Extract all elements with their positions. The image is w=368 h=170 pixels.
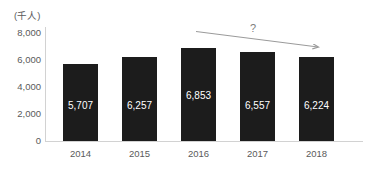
bar-value-label: 6,853 [181,90,216,101]
y-tick-label: 6,000 [1,55,41,65]
bar-2016: 6,853 [181,48,216,141]
x-tick-label-2017: 2017 [240,148,275,159]
bar-value-label: 5,707 [63,100,98,111]
y-tick-label: 0 [1,136,41,146]
y-tick-label: 8,000 [1,28,41,38]
bar-value-label: 6,257 [122,100,157,111]
x-axis-line [45,141,363,142]
y-axis-line [45,27,46,142]
annotation-question-mark: ? [250,22,256,34]
bar-2018: 6,224 [299,57,334,141]
y-axis-tick-labels: 8,000 6,000 4,000 2,000 0 [0,0,41,170]
bar-chart: (千人) 8,000 6,000 4,000 2,000 0 5,7076,25… [0,0,368,170]
bar-2014: 5,707 [63,64,98,141]
x-tick-label-2014: 2014 [63,148,98,159]
x-tick-label-2016: 2016 [181,148,216,159]
bar-2017: 6,557 [240,52,275,141]
y-tick-label: 4,000 [1,82,41,92]
bar-value-label: 6,557 [240,100,275,111]
bar-value-label: 6,224 [299,100,334,111]
x-tick-label-2015: 2015 [122,148,157,159]
y-tick-label: 2,000 [1,109,41,119]
bar-2015: 6,257 [122,57,157,141]
x-tick-label-2018: 2018 [299,148,334,159]
